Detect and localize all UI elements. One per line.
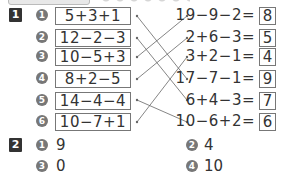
matching-lines [0, 0, 297, 178]
right-expression-1: 19−9−2= [176, 7, 255, 23]
answer-box-2: 5 [259, 29, 276, 47]
right-expression-3: 3+2−1= [186, 48, 255, 64]
right-expression-6: 10−6+2= [176, 113, 255, 129]
right-expression-4: 17−7−1= [176, 70, 255, 86]
answer-box-1: 8 [259, 7, 276, 25]
right-expression-5: 6+4−3= [186, 92, 255, 108]
answer-box-3: 4 [259, 48, 276, 66]
s2-item-number-4: 4 [186, 160, 198, 172]
s2-item-number-2: 2 [186, 139, 198, 151]
answer-box-4: 9 [259, 70, 276, 88]
s2-answer-1: 9 [56, 137, 66, 153]
right-expression-2: 2+6−3= [186, 29, 255, 45]
s2-answer-3: 0 [56, 158, 66, 174]
s2-answer-2: 4 [204, 137, 214, 153]
s2-answer-4: 10 [204, 158, 223, 174]
s2-item-number-3: 3 [36, 160, 48, 172]
answer-box-6: 6 [259, 113, 276, 131]
s2-item-number-1: 1 [36, 139, 48, 151]
section-2-badge: 2 [9, 138, 22, 152]
answer-box-5: 7 [259, 92, 276, 110]
